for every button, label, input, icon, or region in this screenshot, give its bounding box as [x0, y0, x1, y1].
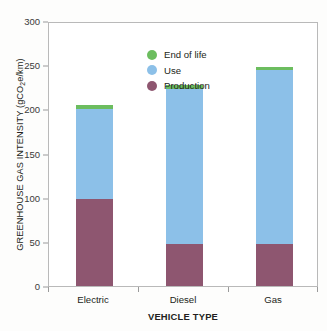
- x-axis-tick-mark: [228, 287, 229, 292]
- bar-segment-production[interactable]: [76, 199, 113, 286]
- y-axis-tick-label: 200: [18, 106, 40, 116]
- y-axis-tick-label: 100: [18, 194, 40, 204]
- x-axis-tick-mark: [138, 287, 139, 292]
- bar-segment-production[interactable]: [166, 244, 203, 286]
- x-axis-tick-label-gas: Gas: [264, 294, 282, 306]
- x-axis-title: VEHICLE TYPE: [48, 311, 318, 322]
- x-axis-tick-mark: [48, 287, 49, 292]
- legend-item-production[interactable]: Production: [147, 80, 210, 91]
- bar-segment-use[interactable]: [256, 70, 293, 244]
- bar-segment-production[interactable]: [256, 244, 293, 286]
- y-axis-tick-label: 0: [18, 282, 40, 292]
- y-axis-tick-label: 150: [18, 150, 40, 160]
- legend-label: Use: [164, 65, 181, 76]
- legend-item-use[interactable]: Use: [147, 65, 210, 76]
- bar-segment-use[interactable]: [166, 89, 203, 244]
- x-axis-tick-label-electric: Electric: [77, 294, 108, 306]
- x-axis-tick-mark: [317, 287, 318, 292]
- legend-swatch-icon: [147, 81, 157, 91]
- x-axis-tick-marks: [48, 287, 318, 292]
- y-axis-tick-label: 250: [18, 61, 40, 71]
- y-axis-tick-label: 50: [18, 238, 40, 248]
- bar-gas[interactable]: [256, 67, 293, 286]
- legend-item-end-of-life[interactable]: End of life: [147, 49, 210, 60]
- legend-swatch-icon: [147, 50, 157, 60]
- y-axis-tick-labels: 050100150200250300: [18, 22, 40, 287]
- legend-label: End of life: [164, 49, 207, 60]
- bar-diesel[interactable]: [166, 85, 203, 286]
- x-axis-tick-labels: ElectricDieselGas: [48, 294, 318, 308]
- y-axis-tick-label: 300: [18, 17, 40, 27]
- chart-figure: GREENHOUSE GAS INTENSITY (gCO2e/km) 0501…: [0, 0, 327, 331]
- legend-label: Production: [164, 80, 210, 91]
- x-axis-tick-label-diesel: Diesel: [170, 294, 197, 306]
- plot-area: End of lifeUseProduction: [48, 22, 318, 287]
- bar-segment-use[interactable]: [76, 109, 113, 199]
- bar-electric[interactable]: [76, 105, 113, 286]
- legend-swatch-icon: [147, 65, 157, 75]
- chart-legend: End of lifeUseProduction: [147, 49, 210, 91]
